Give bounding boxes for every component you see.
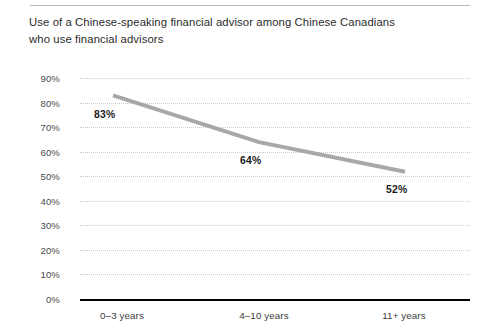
value-label-point-2: 64%	[240, 155, 261, 166]
chart-plot-area: 90% 80% 70% 60% 50% 40% 30% 20% 10% 0% 8…	[0, 0, 482, 336]
x-tick-label: 11+ years	[382, 310, 425, 321]
x-tick-label: 4–10 years	[239, 310, 288, 321]
data-series-svg	[0, 0, 482, 336]
value-label-point-3: 52%	[386, 184, 407, 195]
x-tick-label: 0–3 years	[100, 310, 144, 321]
value-label-point-1: 83%	[94, 109, 115, 120]
